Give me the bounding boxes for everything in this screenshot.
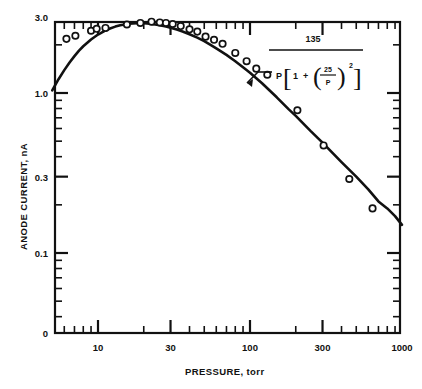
formula-bracket-close: ] <box>353 63 362 92</box>
formula-bracket-open: [ <box>283 63 292 92</box>
y-tick-label: 0.1 <box>35 248 49 259</box>
data-point-marker <box>63 36 69 42</box>
y-tick-label: 0 <box>43 328 48 339</box>
data-point-marker <box>178 23 184 29</box>
data-point-marker <box>320 142 326 148</box>
y-tick-label: 0.3 <box>35 172 48 183</box>
x-tick-label: 30 <box>165 342 176 353</box>
data-point-marker <box>163 20 169 26</box>
data-point-marker <box>346 176 352 182</box>
formula-inner-numerator: 25 <box>324 66 332 73</box>
formula-inner-denominator: P <box>326 79 331 86</box>
data-point-marker <box>93 26 99 32</box>
x-tick-label: 1000 <box>391 342 412 353</box>
data-point-marker <box>369 205 375 211</box>
data-point-marker <box>294 107 300 113</box>
x-tick-label: 100 <box>242 342 258 353</box>
figure-container: ANODE CURRENT, nA PRESSURE, torr 1030100… <box>0 0 422 389</box>
data-point-marker <box>102 25 108 31</box>
data-point-marker <box>148 19 154 25</box>
data-point-marker <box>72 33 78 39</box>
data-point-marker <box>219 41 225 47</box>
formula-paren-open: ( <box>313 62 322 91</box>
data-point-marker <box>243 58 249 64</box>
plot-canvas: 10301003001000 3.01.00.30.10 135 P [ 1 +… <box>0 0 422 389</box>
fitted-curve <box>52 23 402 225</box>
data-point-marker <box>232 50 238 56</box>
formula-denominator-lead: P <box>276 71 282 81</box>
data-point-marker <box>169 21 175 27</box>
data-point-marker <box>211 37 217 43</box>
data-point-marker <box>253 65 259 71</box>
y-tick-label: 1.0 <box>35 88 48 99</box>
x-tick-label: 300 <box>315 342 331 353</box>
data-point-marker <box>124 21 130 27</box>
y-tick-label: 3.0 <box>35 12 48 23</box>
y-axis-tick-labels: 3.01.00.30.10 <box>35 12 49 339</box>
formula-numerator: 135 <box>305 34 320 44</box>
formula-annotation: 135 P [ 1 + ( 25 P ) 2 ] <box>247 34 363 92</box>
x-tick-label: 10 <box>93 342 104 353</box>
data-point-marker <box>202 33 208 39</box>
x-axis-tick-labels: 10301003001000 <box>93 342 413 353</box>
formula-denominator-one: 1 <box>293 71 298 81</box>
data-point-marker <box>137 20 143 26</box>
data-point-markers <box>63 19 376 212</box>
data-point-marker <box>194 28 200 34</box>
formula-plus-sign: + <box>303 71 308 81</box>
data-point-marker <box>186 26 192 32</box>
formula-paren-close: ) <box>337 62 346 91</box>
